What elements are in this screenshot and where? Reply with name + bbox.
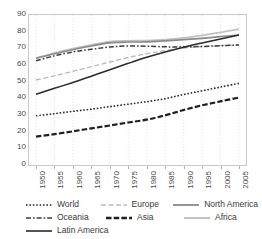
title-strip <box>0 0 262 7</box>
dotted-line-icon <box>26 201 52 209</box>
legend-item-oceania[interactable]: Oceania <box>26 213 106 222</box>
y-tick-label: 30 <box>2 110 26 118</box>
x-tick-label: 1990 <box>187 171 195 189</box>
legend-label: Europe <box>132 200 159 209</box>
x-tick-mark <box>54 166 55 169</box>
x-tick-mark <box>221 166 222 169</box>
x-tick-label: 1950 <box>39 171 47 189</box>
x-tick-mark <box>147 166 148 169</box>
x-tick-label: 1960 <box>76 171 84 189</box>
y-tick-label: 10 <box>2 143 26 151</box>
y-tick-label: 90 <box>2 10 26 18</box>
series-line-latin-america <box>36 35 239 94</box>
x-tick-mark <box>202 166 203 169</box>
x-tick-label: 1975 <box>131 171 139 189</box>
y-tick-label: 70 <box>2 43 26 51</box>
legend-item-africa[interactable]: Africa <box>184 213 237 222</box>
legend-label: Oceania <box>57 213 89 222</box>
legend-row: Latin America <box>26 224 258 237</box>
x-tick-label: 2005 <box>242 171 250 189</box>
plot-svg <box>29 15 246 165</box>
legend-item-world[interactable]: World <box>26 200 101 209</box>
legend-label: North America <box>204 200 258 209</box>
x-tick-label: 1965 <box>94 171 102 189</box>
solid-gray-line-icon <box>173 201 199 209</box>
x-tick-label: 1980 <box>150 171 158 189</box>
series-line-oceania <box>36 45 239 61</box>
dashed-heavy-line-icon <box>106 214 132 222</box>
series-line-world <box>36 83 239 116</box>
x-tick-label: 1985 <box>168 171 176 189</box>
y-tick-label: 20 <box>2 127 26 135</box>
legend-row: WorldEuropeNorth America <box>26 198 258 211</box>
x-tick-mark <box>128 166 129 169</box>
y-tick-label: 60 <box>2 60 26 68</box>
legend-item-latin-america[interactable]: Latin America <box>26 226 106 235</box>
x-tick-mark <box>91 166 92 169</box>
series-line-africa <box>36 29 239 58</box>
legend-label: Asia <box>137 213 154 222</box>
legend-item-north-america[interactable]: North America <box>173 200 258 209</box>
legend-item-europe[interactable]: Europe <box>101 200 174 209</box>
line-chart: 0102030405060708090 19501955196019651970… <box>0 0 262 239</box>
solid-line-icon <box>26 227 52 235</box>
x-tick-mark <box>184 166 185 169</box>
legend-label: Africa <box>215 213 237 222</box>
solid-light-line-icon <box>184 214 210 222</box>
x-tick-label: 1995 <box>205 171 213 189</box>
x-tick-label: 1970 <box>113 171 121 189</box>
y-axis: 0102030405060708090 <box>0 14 26 166</box>
legend-label: Latin America <box>57 226 109 235</box>
x-tick-label: 2000 <box>224 171 232 189</box>
dashed-light-line-icon <box>101 201 127 209</box>
x-axis: 1950195519601965197019751980198519901995… <box>28 166 247 200</box>
x-tick-mark <box>165 166 166 169</box>
y-tick-label: 80 <box>2 27 26 35</box>
dash-dot-line-icon <box>26 214 52 222</box>
x-tick-mark <box>36 166 37 169</box>
x-tick-mark <box>73 166 74 169</box>
legend-label: World <box>57 200 79 209</box>
chart-legend: WorldEuropeNorth AmericaOceaniaAsiaAfric… <box>26 198 258 237</box>
legend-item-asia[interactable]: Asia <box>106 213 184 222</box>
y-tick-label: 40 <box>2 93 26 101</box>
x-tick-mark <box>239 166 240 169</box>
plot-area <box>28 14 247 166</box>
legend-row: OceaniaAsiaAfrica <box>26 211 258 224</box>
x-tick-label: 1955 <box>57 171 65 189</box>
y-tick-label: 0 <box>2 160 26 168</box>
y-tick-label: 50 <box>2 77 26 85</box>
x-tick-mark <box>110 166 111 169</box>
